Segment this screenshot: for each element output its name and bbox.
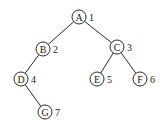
node-f: F6 [133,72,155,86]
edge-c-f [121,53,136,74]
tree-canvas: A1B2C3D4E5F6G7 [0,0,166,132]
edges-group [25,21,136,106]
node-label: D [17,74,24,85]
node-e: E5 [90,72,112,86]
edge-a-c [84,21,111,42]
edge-c-e [101,53,114,73]
node-a: A1 [72,10,94,24]
node-label: E [94,74,100,85]
edge-a-b [48,22,74,45]
node-index-number: 6 [150,74,155,85]
node-index-number: 5 [107,74,112,85]
node-c: C3 [110,40,132,54]
node-index-number: 1 [89,12,94,23]
node-label: B [40,44,47,55]
node-label: A [75,12,83,23]
binary-tree-diagram: A1B2C3D4E5F6G7 [0,0,166,132]
node-label: C [114,42,121,53]
node-d: D4 [14,72,36,86]
node-b: B2 [36,42,58,56]
edge-d-g [25,85,41,107]
edge-b-d [25,55,39,74]
node-label: F [137,74,143,85]
node-index-number: 7 [55,107,60,118]
node-label: G [41,107,48,118]
node-index-number: 4 [31,74,36,85]
node-index-number: 2 [53,44,58,55]
node-index-number: 3 [127,42,132,53]
node-g: G7 [38,105,60,119]
nodes-group: A1B2C3D4E5F6G7 [14,10,155,119]
